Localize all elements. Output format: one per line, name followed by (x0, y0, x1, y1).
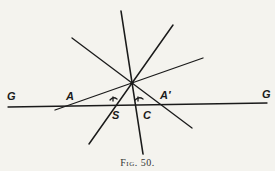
label-G-left: G (7, 91, 16, 102)
label-C: C (143, 110, 151, 121)
label-A-prime: A′ (160, 90, 171, 101)
label-A: A (66, 91, 74, 102)
geometry-figure: G A S C A′ G Fig. 50. (0, 0, 275, 171)
figure-lines (0, 0, 275, 171)
intersection-point (130, 81, 133, 84)
angle-marker-C-icon (135, 98, 143, 100)
ground-line-GG (8, 103, 267, 107)
label-S: S (112, 110, 119, 121)
figure-caption: Fig. 50. (0, 157, 275, 168)
steep-line-through-S (89, 25, 173, 144)
label-G-right: G (262, 89, 271, 100)
